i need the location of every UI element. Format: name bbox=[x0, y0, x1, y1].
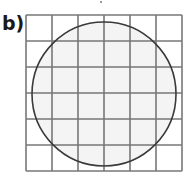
grid bbox=[26, 15, 182, 171]
grid-circle-figure bbox=[0, 0, 190, 179]
